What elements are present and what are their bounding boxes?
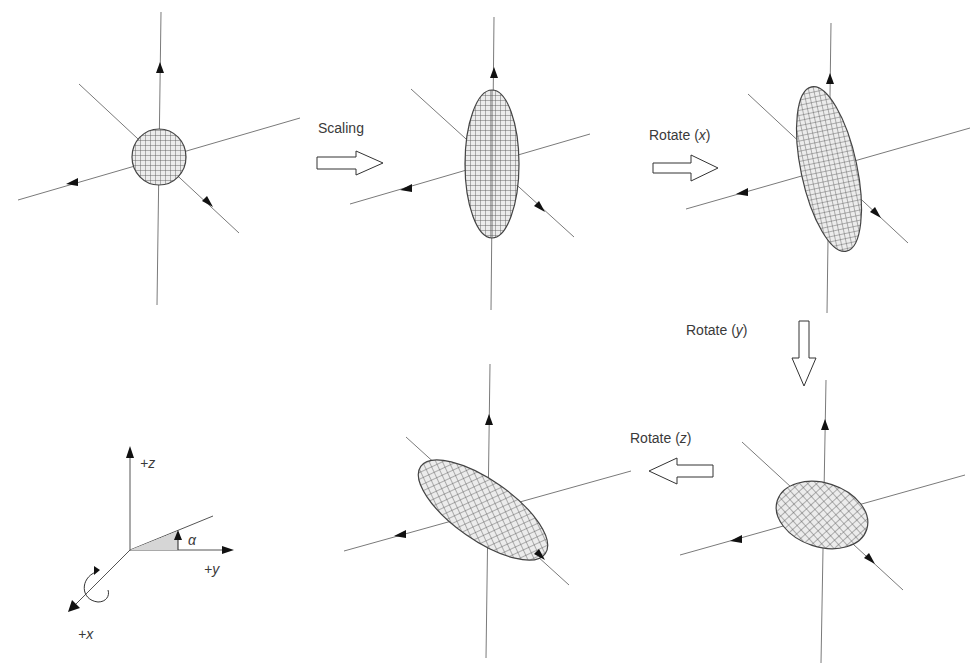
angle-wedge: [130, 531, 178, 550]
legend-x-label: +x: [78, 626, 93, 642]
arrowhead-icon: [222, 546, 234, 554]
arrowhead-icon: [730, 535, 742, 543]
panel-sphere: [18, 12, 300, 305]
arrow-rotate-y: [792, 321, 816, 386]
arrowhead-icon: [826, 73, 834, 84]
arrow-rotate-x: [653, 155, 718, 181]
down-arrow-icon: [792, 321, 816, 386]
arrowhead-icon: [126, 446, 134, 458]
arrowhead-icon: [94, 566, 100, 575]
legend-z-label: +z: [140, 455, 155, 471]
arrowhead-icon: [400, 184, 412, 192]
arrowhead-icon: [821, 419, 829, 430]
panel-rotated-z: [344, 364, 631, 658]
rotate-x-label: Rotate (x): [649, 127, 710, 143]
scaling-label: Scaling: [318, 120, 364, 136]
arrowhead-icon: [202, 196, 213, 207]
arrowhead-icon: [490, 67, 498, 78]
rotate-z-label: Rotate (z): [630, 430, 691, 446]
arrowhead-icon: [485, 414, 493, 425]
rotated-z-ellipsoid-mesh: [404, 442, 563, 578]
arrowhead-icon: [156, 62, 164, 73]
legend-y-label: +y: [204, 561, 219, 577]
rotated-y-ellipsoid-mesh: [767, 470, 876, 560]
sphere-mesh: [132, 129, 186, 185]
arrow-rotate-z: [649, 458, 713, 484]
rotated-x-ellipsoid-mesh: [784, 81, 874, 257]
right-arrow-icon: [653, 155, 718, 181]
arrowhead-icon: [864, 553, 875, 564]
right-arrow-icon: [317, 151, 383, 175]
rotation-arrow-icon: [84, 572, 108, 602]
arrowhead-icon: [66, 178, 78, 186]
panel-rotated-x: [686, 23, 970, 313]
panel-rotated-y: [680, 380, 965, 663]
rotate-y-label: Rotate (y): [686, 322, 747, 338]
legend-x-axis: [72, 550, 130, 608]
arrow-scaling: [317, 151, 383, 175]
ellipsoid-transform-diagram: [0, 0, 980, 672]
legend-angle-label: α: [188, 532, 196, 548]
left-arrow-icon: [649, 458, 713, 484]
arrowhead-icon: [736, 188, 748, 196]
panel-scaled: [350, 17, 590, 310]
